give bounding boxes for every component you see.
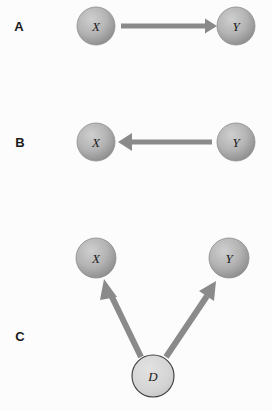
node-label: X <box>91 19 101 34</box>
node-label: D <box>147 369 158 384</box>
node-label: X <box>91 135 101 150</box>
arrowhead-icon <box>100 279 117 300</box>
edge-shaft <box>166 296 207 357</box>
node-a-y: Y <box>217 7 255 45</box>
edge-shaft <box>111 295 141 357</box>
diagram-canvas: A X Y B X <box>0 0 272 411</box>
panel-c: C X Y D <box>15 238 249 397</box>
node-b-x: X <box>77 123 115 161</box>
edge-b-y-to-x <box>118 133 212 151</box>
edge-a-x-to-y <box>121 19 217 34</box>
arrowhead-icon <box>118 133 132 151</box>
node-c-y: Y <box>209 238 249 278</box>
node-a-x: X <box>77 7 115 45</box>
arrowhead-icon <box>205 19 217 34</box>
panel-b-label: B <box>15 135 24 150</box>
panel-a-label: A <box>14 19 24 34</box>
node-c-x: X <box>76 238 116 278</box>
node-b-y: Y <box>217 123 255 161</box>
node-c-d: D <box>132 355 174 397</box>
edge-c-d-to-x <box>100 279 141 357</box>
panel-a: A X Y <box>14 7 255 45</box>
node-label: X <box>91 251 101 266</box>
causal-diagram-figure: A X Y B X <box>0 0 272 411</box>
panel-c-label: C <box>15 329 25 344</box>
panel-b: B X Y <box>15 123 255 161</box>
edge-c-d-to-y <box>166 281 216 357</box>
